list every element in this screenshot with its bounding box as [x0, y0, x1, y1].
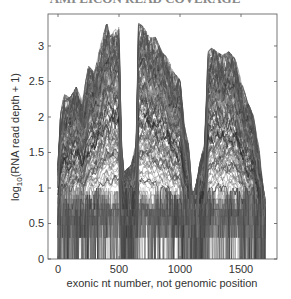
- x-axis-label: exonic nt number, not genomic position: [67, 277, 258, 289]
- x-tick-label: 1000: [168, 263, 192, 275]
- clipped-title: AMPLICON READ COVERAGE: [50, 0, 241, 6]
- y-tick-label: 0: [38, 253, 44, 265]
- chart-figure: AMPLICON READ COVERAGE 050010001500 00.5…: [0, 0, 291, 299]
- y-tick-label: 2.5: [29, 75, 44, 87]
- y-tick-label: 2: [38, 111, 44, 123]
- y-tick-label: 1: [38, 182, 44, 194]
- x-tick-label: 0: [55, 263, 61, 275]
- y-tick-label: 3: [38, 40, 44, 52]
- y-axis-label: log10(RNA read depth + 1): [9, 73, 24, 201]
- y-tick-label: 1.5: [29, 146, 44, 158]
- y-tick-label: 0.5: [29, 217, 44, 229]
- x-tick-label: 1500: [229, 263, 253, 275]
- x-tick-label: 500: [110, 263, 128, 275]
